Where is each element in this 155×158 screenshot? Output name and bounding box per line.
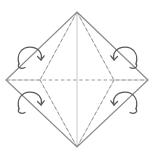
origami-fold-diagram xyxy=(0,0,155,158)
origami-diagram-container xyxy=(0,0,155,158)
